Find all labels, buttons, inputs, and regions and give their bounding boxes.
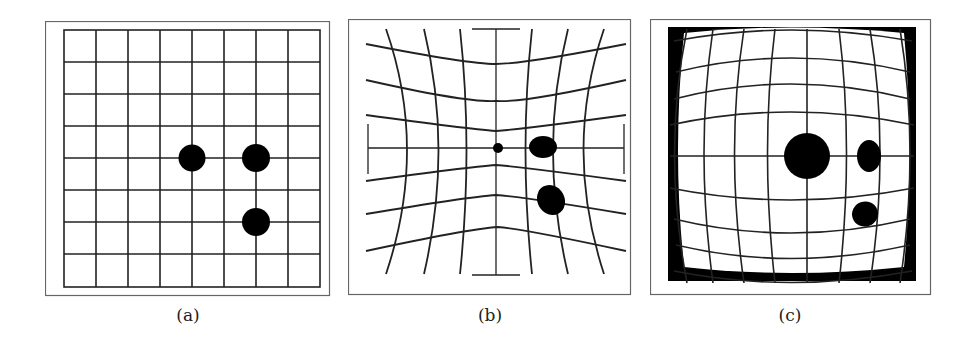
square-grid-diagram — [45, 21, 331, 297]
dot-center — [179, 145, 206, 172]
dot-lower-right — [242, 208, 270, 236]
dot-right — [857, 140, 881, 172]
pincushion-grid-diagram — [348, 19, 632, 297]
barrel-grid-diagram — [650, 19, 932, 297]
caption-a: (a) — [158, 305, 218, 325]
dot-center — [493, 143, 503, 153]
panel-a — [45, 21, 331, 297]
caption-b: (b) — [460, 305, 520, 325]
dot-lower-right — [532, 180, 571, 220]
dot-right — [242, 144, 270, 172]
dot-right — [529, 136, 557, 158]
panel-b — [348, 19, 632, 297]
caption-c: (c) — [760, 305, 820, 325]
dot-center — [784, 133, 830, 179]
panel-c — [650, 19, 932, 297]
